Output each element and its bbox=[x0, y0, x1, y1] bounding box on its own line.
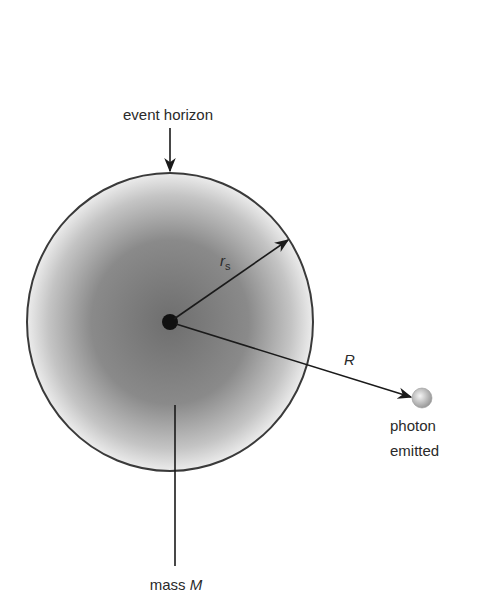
event-horizon-label: event horizon bbox=[123, 106, 213, 123]
diagram-canvas: event horizon rs R photon emitted mass M bbox=[0, 0, 493, 600]
mass-label: mass M bbox=[150, 576, 203, 593]
photon-label-line1: photon bbox=[390, 417, 436, 434]
R-label: R bbox=[344, 351, 355, 368]
photon-label-line2: emitted bbox=[390, 442, 439, 459]
photon-sphere-icon bbox=[412, 388, 432, 408]
singularity-dot bbox=[162, 314, 178, 330]
